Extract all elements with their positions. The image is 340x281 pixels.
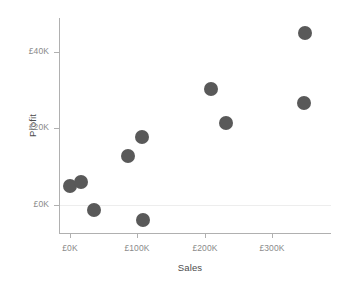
zero-reference-line xyxy=(60,205,331,206)
y-axis-tick-label: £40K xyxy=(29,46,49,56)
data-point[interactable] xyxy=(136,213,150,227)
x-axis-tick xyxy=(205,233,206,238)
data-point[interactable] xyxy=(204,82,218,96)
data-point[interactable] xyxy=(298,26,312,40)
x-axis-line xyxy=(59,233,331,234)
data-point[interactable] xyxy=(135,130,149,144)
x-axis-tick xyxy=(137,233,138,238)
x-axis-tick-label: £0K xyxy=(62,243,77,253)
data-point[interactable] xyxy=(121,149,135,163)
y-axis-tick-label: £20K xyxy=(29,122,49,132)
x-axis-tick xyxy=(70,233,71,238)
x-axis-tick-label: £300K xyxy=(259,243,284,253)
y-axis-tick-label: £0K xyxy=(34,199,49,209)
scatter-chart: Profit £40K£20K£0K £0K£100K£200K£300K Sa… xyxy=(0,0,340,281)
y-axis-tick xyxy=(54,52,59,53)
data-point[interactable] xyxy=(74,175,88,189)
y-axis-line xyxy=(59,18,60,234)
data-point[interactable] xyxy=(87,203,101,217)
data-point[interactable] xyxy=(219,116,233,130)
x-axis-tick-label: £200K xyxy=(192,243,217,253)
y-axis-title: Profit xyxy=(25,0,39,281)
y-axis-tick xyxy=(54,128,59,129)
x-axis-tick xyxy=(272,233,273,238)
data-point[interactable] xyxy=(297,96,311,110)
y-axis-tick xyxy=(54,205,59,206)
x-axis-title: Sales xyxy=(70,262,310,273)
x-axis-tick-label: £100K xyxy=(124,243,149,253)
